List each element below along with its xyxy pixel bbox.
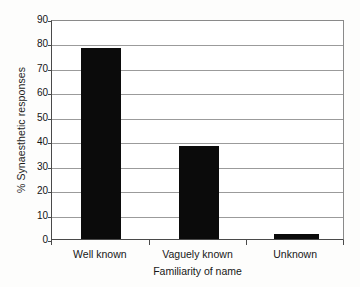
bar-series <box>52 21 343 239</box>
x-axis-category-label: Well known <box>73 247 127 261</box>
x-axis-tick-mark <box>343 240 344 245</box>
x-axis-title: Familiarity of name <box>51 265 344 277</box>
y-axis-tick-label: 50 <box>37 113 48 123</box>
x-axis-tick-mark <box>149 240 150 245</box>
y-axis-tick-label: 80 <box>37 39 48 49</box>
bar <box>274 234 319 239</box>
bar <box>179 146 219 239</box>
y-axis-tick-label: 60 <box>37 88 48 98</box>
y-axis-tick-label: 10 <box>37 211 48 221</box>
x-axis-tick-mark <box>51 240 52 245</box>
x-axis-category-label: Vaguely known <box>162 247 232 261</box>
x-axis-category-labels: Well knownVaguely knownUnknown <box>51 247 344 263</box>
plot-area <box>51 20 344 240</box>
y-axis-tick-labels: 0102030405060708090 <box>24 14 48 242</box>
y-axis-tick-label: 20 <box>37 186 48 196</box>
y-axis-tick-label: 90 <box>37 15 48 25</box>
x-axis-category-label: Unknown <box>273 247 317 261</box>
x-axis-tick-mark <box>246 240 247 245</box>
y-axis-tick-label: 30 <box>37 162 48 172</box>
bar <box>81 48 121 239</box>
y-axis-tick-label: 0 <box>42 235 48 245</box>
bar-chart-figure: % Synaesthetic responses 010203040506070… <box>0 0 360 287</box>
y-axis-tick-label: 70 <box>37 64 48 74</box>
y-axis-tick-label: 40 <box>37 137 48 147</box>
x-axis-tick-marks <box>51 240 344 246</box>
